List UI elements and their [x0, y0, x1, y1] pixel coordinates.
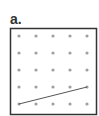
grid-dot [17, 51, 20, 54]
grid-dot [17, 34, 20, 37]
grid-dot [34, 68, 37, 71]
grid-dot [68, 102, 71, 105]
grid-dot [34, 51, 37, 54]
grid-dot [68, 51, 71, 54]
grid-dot [17, 85, 20, 88]
grid-dot [17, 68, 20, 71]
grid-dot [51, 51, 54, 54]
grid-dot [51, 68, 54, 71]
grid-dot [51, 102, 54, 105]
grid-dot [34, 34, 37, 37]
grid-dot [85, 102, 88, 105]
grid-dot [34, 85, 37, 88]
grid-dot [68, 85, 71, 88]
grid-dot [85, 51, 88, 54]
grid-dot [85, 68, 88, 71]
grid-dot [68, 68, 71, 71]
grid-dot [34, 102, 37, 105]
grid-dot [51, 34, 54, 37]
dot-grid [17, 34, 88, 105]
geoboard-diagram [0, 0, 99, 116]
grid-dot [68, 34, 71, 37]
grid-dot [85, 34, 88, 37]
line-segment [19, 87, 87, 104]
grid-dot [51, 85, 54, 88]
